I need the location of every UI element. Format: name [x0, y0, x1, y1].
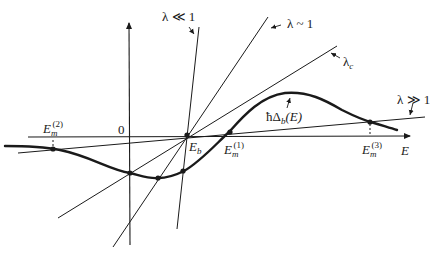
axis-E-text: E [401, 143, 409, 158]
pointer-lambda-critical [331, 53, 340, 58]
label-E-m1: Em(1) [224, 143, 244, 156]
label-E-m2: Em(2) [43, 122, 63, 135]
E-m1-sup: (1) [233, 140, 244, 150]
point-E-m3 [367, 119, 372, 124]
point-curve-lambda-approx-1 [155, 175, 160, 180]
curve-delta-b [5, 93, 397, 178]
label-lambda-approx-1: λ ~ 1 [287, 17, 313, 30]
E-b-main: E [189, 139, 197, 154]
pointer-lambda-approx-1 [271, 25, 281, 28]
label-lambda-much-less-1: λ ≪ 1 [162, 10, 195, 23]
diagram-canvas [0, 0, 440, 260]
E-b-sub: b [197, 146, 202, 156]
line-lambda-critical [58, 46, 337, 218]
label-axis-E: E [401, 144, 409, 157]
point-E-m2 [50, 146, 55, 151]
pointer-curve-label [287, 98, 290, 108]
label-E-b: Eb [189, 140, 201, 153]
point-E-m1 [227, 129, 232, 134]
label-lambda-much-greater-1-text: λ ≫ 1 [397, 92, 430, 107]
point-E-b [184, 132, 189, 137]
E-m2-sub: m [51, 128, 58, 138]
point-curve-lambda-much-less-1 [180, 168, 185, 173]
label-lambda-approx-1-text: λ ~ 1 [287, 16, 313, 31]
E-m3-main: E [362, 142, 370, 157]
origin-text: 0 [118, 122, 125, 137]
E-m3-sup: (3) [371, 140, 382, 150]
E-m2-main: E [43, 121, 51, 136]
point-curve-vertical-axis [127, 170, 132, 175]
label-curve-delta-b: ħΔb(E) [266, 110, 302, 123]
curve-label-main: ħΔ [266, 109, 281, 124]
vertical-axis [129, 23, 130, 245]
label-lambda-critical: λc [343, 55, 353, 68]
E-m2-sup: (2) [52, 119, 63, 129]
curve-label-sub: b [281, 116, 286, 126]
E-m3-sub: m [370, 149, 377, 159]
horizontal-axis-E [28, 136, 410, 137]
label-lambda-much-less-1-text: λ ≪ 1 [162, 9, 195, 24]
line-lambda-approx-1 [113, 17, 268, 247]
E-m1-main: E [224, 142, 232, 157]
label-lambda-critical-sub: c [349, 61, 353, 71]
label-lambda-much-greater-1: λ ≫ 1 [397, 93, 430, 106]
pointer-lambda-much-less-1 [189, 27, 194, 34]
label-E-m3: Em(3) [362, 143, 382, 156]
label-origin: 0 [118, 123, 125, 136]
curve-label-arg: (E) [285, 109, 302, 124]
line-lambda-much-less-1 [177, 27, 199, 229]
E-m1-sub: m [232, 149, 239, 159]
